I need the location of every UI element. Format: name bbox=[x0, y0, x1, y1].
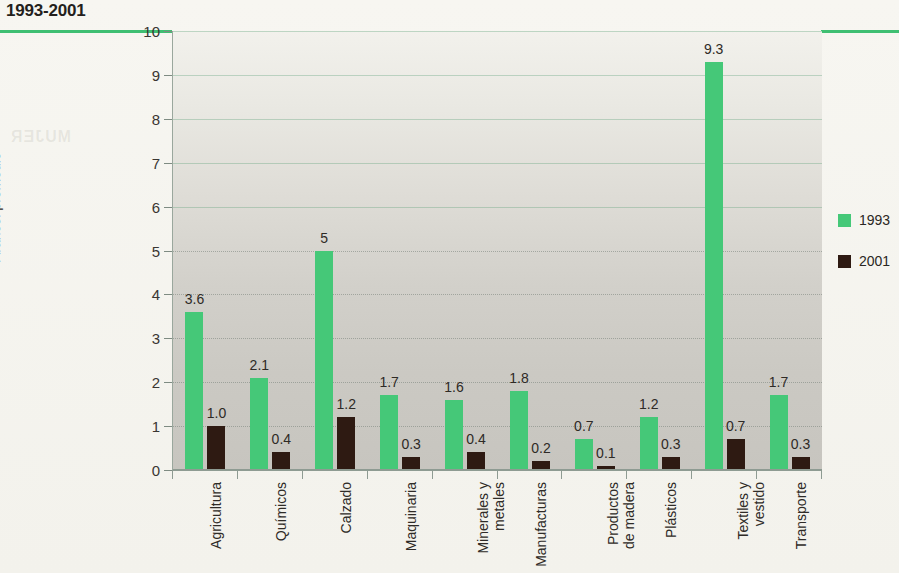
legend-item-2001: 2001 bbox=[838, 253, 890, 269]
bar-value-label: 1.7 bbox=[374, 374, 404, 390]
bar-value-label: 0.3 bbox=[786, 436, 816, 452]
x-axis-category-label: Textiles yvestido bbox=[736, 482, 767, 540]
bar-1993-maquinaria bbox=[380, 395, 398, 470]
bar-value-label: 0.7 bbox=[721, 418, 751, 434]
gridline bbox=[173, 75, 822, 76]
y-axis-tick-label: 0 bbox=[134, 462, 160, 479]
x-axis-tick bbox=[172, 470, 173, 479]
x-axis-category-label: Productosde madera bbox=[606, 482, 637, 549]
x-axis-label-line: vestido bbox=[751, 482, 767, 540]
bar-1993-agricultura bbox=[185, 312, 203, 470]
x-axis-tick bbox=[497, 470, 498, 479]
legend-label: 2001 bbox=[859, 253, 890, 269]
bar-value-label: 0.4 bbox=[461, 431, 491, 447]
y-axis-tick-mark bbox=[164, 119, 172, 120]
gridline bbox=[173, 338, 822, 340]
y-axis-tick-label: 9 bbox=[134, 66, 160, 83]
y-axis-tick-label: 1 bbox=[134, 418, 160, 435]
x-axis-category-label: Minerales ymetales bbox=[476, 482, 507, 554]
y-axis-tick-mark bbox=[164, 163, 172, 164]
x-axis-category-label: Plásticos bbox=[664, 482, 680, 538]
bar-1993-manufacturas bbox=[510, 391, 528, 470]
bar-1993-textiles-y-vestido bbox=[705, 62, 723, 470]
header-rule-right bbox=[821, 30, 899, 33]
y-axis-tick-mark bbox=[164, 294, 172, 295]
x-axis-category-label: Manufacturas bbox=[534, 482, 550, 567]
bar-value-label: 1.8 bbox=[504, 370, 534, 386]
bar-value-label: 0.3 bbox=[396, 436, 426, 452]
bar-1993-transporte bbox=[770, 395, 788, 470]
y-axis-tick-label: 8 bbox=[134, 110, 160, 127]
y-axis-tick-mark bbox=[164, 426, 172, 427]
bar-2001-minerales-y-metales bbox=[467, 452, 485, 470]
gridline bbox=[173, 31, 822, 32]
legend-label: 1993 bbox=[859, 212, 890, 228]
bar-value-label: 1.2 bbox=[331, 396, 361, 412]
x-axis-label-line: metales bbox=[492, 482, 508, 554]
x-axis-tick bbox=[237, 470, 238, 479]
x-axis-category-label: Agricultura bbox=[209, 482, 225, 549]
x-axis-tick bbox=[821, 470, 822, 479]
bar-value-label: 1.7 bbox=[764, 374, 794, 390]
x-axis-label-line: Plásticos bbox=[663, 482, 679, 538]
x-axis-label-line: Minerales y bbox=[475, 482, 491, 554]
gridline bbox=[173, 382, 822, 384]
x-axis-category-label: Químicos bbox=[274, 482, 290, 541]
page-title: 1993-2001 bbox=[6, 1, 86, 21]
bar-2001-agricultura bbox=[207, 426, 225, 470]
bar-value-label: 0.2 bbox=[526, 440, 556, 456]
x-axis-label-line: Calzado bbox=[338, 482, 354, 533]
chart-page: EN LOS UMBRALES DEL SIGLO CONDICION DE L… bbox=[0, 0, 899, 573]
x-axis-tick bbox=[756, 470, 757, 479]
x-axis-label-line: Maquinaria bbox=[403, 482, 419, 551]
bar-1993-calzado bbox=[315, 251, 333, 471]
y-axis-tick-label: 5 bbox=[134, 242, 160, 259]
x-axis-tick bbox=[367, 470, 368, 479]
bar-value-label: 5 bbox=[309, 230, 339, 246]
bar-value-label: 1.2 bbox=[634, 396, 664, 412]
x-axis-label-line: Agricultura bbox=[208, 482, 224, 549]
y-axis-tick-mark bbox=[164, 75, 172, 76]
gridline bbox=[173, 294, 822, 296]
gridline bbox=[173, 207, 822, 208]
x-axis-label-line: Productos bbox=[605, 482, 621, 545]
x-axis-label-line: de madera bbox=[622, 482, 638, 549]
bar-value-label: 0.4 bbox=[266, 431, 296, 447]
bar-value-label: 2.1 bbox=[244, 357, 274, 373]
y-axis-tick-label: 3 bbox=[134, 330, 160, 347]
gridline bbox=[173, 251, 822, 253]
bar-value-label: 0.7 bbox=[569, 418, 599, 434]
legend-swatch-icon bbox=[838, 255, 851, 268]
bar-value-label: 3.6 bbox=[179, 291, 209, 307]
bar-value-label: 1.0 bbox=[201, 405, 231, 421]
x-axis-category-label: Transporte bbox=[794, 482, 810, 549]
y-axis-tick-label: 10 bbox=[134, 23, 160, 40]
gridline bbox=[173, 119, 822, 120]
x-axis-tick bbox=[626, 470, 627, 479]
bar-value-label: 9.3 bbox=[699, 41, 729, 57]
y-axis-tick-label: 7 bbox=[134, 154, 160, 171]
x-axis-tick bbox=[691, 470, 692, 479]
bar-value-label: 1.6 bbox=[439, 379, 469, 395]
y-axis-tick-mark bbox=[164, 31, 172, 32]
legend-item-1993: 1993 bbox=[838, 212, 890, 228]
x-axis-tick bbox=[302, 470, 303, 479]
bar-1993-qu-micos bbox=[250, 378, 268, 470]
y-axis-tick-mark bbox=[164, 207, 172, 208]
y-axis-title: Arancel promedio bbox=[0, 152, 3, 262]
x-axis-label-line: Transporte bbox=[793, 482, 809, 549]
x-axis-tick bbox=[561, 470, 562, 479]
y-axis-tick-mark bbox=[164, 251, 172, 252]
gridline bbox=[173, 163, 822, 164]
x-axis-tick bbox=[432, 470, 433, 479]
bar-value-label: 0.1 bbox=[591, 445, 621, 461]
x-axis-label-line: Manufacturas bbox=[533, 482, 549, 567]
bar-2001-qu-micos bbox=[272, 452, 290, 470]
legend: 19932001 bbox=[838, 212, 890, 294]
bar-2001-textiles-y-vestido bbox=[727, 439, 745, 470]
ghost-text-7: MUJER bbox=[10, 128, 71, 146]
y-axis-tick-mark bbox=[164, 470, 172, 471]
x-axis-category-label: Calzado bbox=[339, 482, 355, 533]
y-axis-tick-label: 6 bbox=[134, 198, 160, 215]
y-axis-tick-label: 4 bbox=[134, 286, 160, 303]
